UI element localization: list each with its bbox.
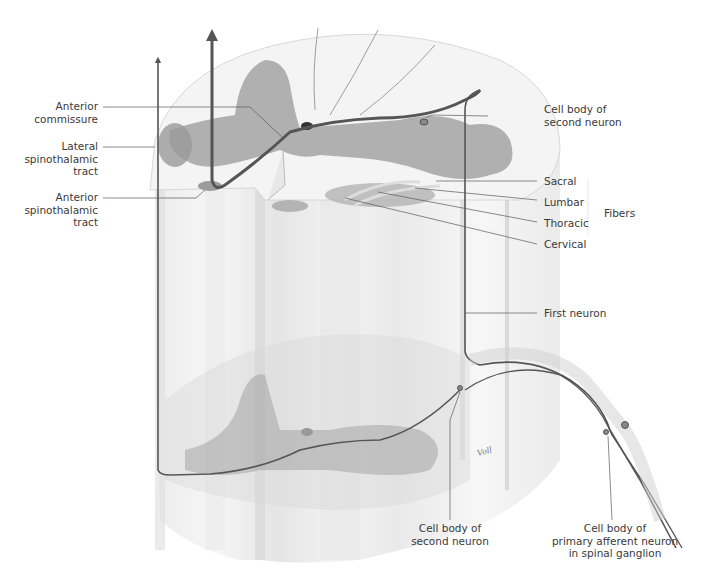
label-cervical: Cervical — [544, 238, 586, 251]
cell-body-primary-afferent — [622, 422, 629, 429]
cell-body-second-neuron-bottom — [458, 386, 463, 391]
cell-body-second-neuron-top — [420, 119, 428, 125]
label-anterior-commissure: Anterior commissure — [20, 100, 98, 125]
spinal-cord-diagram: Voll Anterior commissure Lateral spinoth… — [0, 0, 713, 573]
label-fibers: Fibers — [604, 207, 635, 220]
spinal-cord-illustration: Voll — [0, 0, 713, 573]
label-lateral-spinothalamic-tract: Lateral spinothalamic tract — [10, 140, 98, 178]
label-anterior-spinothalamic-tract: Anterior spinothalamic tract — [10, 191, 98, 229]
label-thoracic: Thoracic — [544, 217, 589, 230]
label-cell-body-second-neuron-top: Cell body of second neuron — [544, 103, 704, 128]
label-first-neuron: First neuron — [544, 307, 606, 320]
label-cell-body-primary-afferent: Cell body of primary afferent neuron in … — [540, 522, 690, 560]
label-lumbar: Lumbar — [544, 196, 584, 209]
label-sacral: Sacral — [544, 175, 577, 188]
label-cell-body-second-neuron-bottom: Cell body of second neuron — [380, 522, 520, 547]
central-canal-bottom — [301, 428, 313, 436]
